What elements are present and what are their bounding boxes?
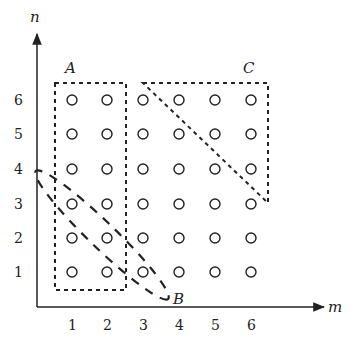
region-b-label: B [172, 290, 184, 308]
x-tick-labels: 1 2 3 4 5 6 [68, 317, 256, 333]
point-circle [102, 95, 112, 105]
y-tick: 2 [14, 230, 23, 246]
y-tick: 5 [14, 126, 23, 142]
x-tick: 2 [103, 317, 112, 333]
y-axis-label: n [30, 8, 40, 26]
point-circle [174, 267, 184, 277]
point-circle [210, 164, 220, 174]
point-circle [102, 164, 112, 174]
point-circle [138, 199, 148, 209]
point-circle [174, 199, 184, 209]
point-circle [246, 233, 256, 243]
point-circle [246, 129, 256, 139]
x-tick: 4 [175, 317, 184, 333]
region-b-outline [27, 162, 177, 309]
point-circle [246, 95, 256, 105]
lattice-diagram: n m 1 2 3 4 5 6 1 2 3 4 5 6 [0, 0, 354, 340]
y-tick: 6 [14, 92, 23, 108]
region-a-label: A [63, 59, 76, 77]
point-circle [210, 129, 220, 139]
y-tick: 1 [14, 264, 23, 280]
diagram-svg: n m 1 2 3 4 5 6 1 2 3 4 5 6 [0, 0, 354, 340]
grid-points [67, 95, 256, 277]
point-circle [210, 267, 220, 277]
x-axis-label: m [328, 298, 342, 316]
point-circle [246, 199, 256, 209]
region-c-label: C [243, 59, 255, 77]
point-circle [67, 199, 77, 209]
point-circle [210, 199, 220, 209]
point-circle [210, 233, 220, 243]
x-tick: 5 [211, 317, 220, 333]
point-circle [246, 164, 256, 174]
point-circle [210, 95, 220, 105]
x-tick: 6 [247, 317, 256, 333]
point-circle [102, 233, 112, 243]
point-circle [174, 233, 184, 243]
point-circle [67, 164, 77, 174]
point-circle [102, 129, 112, 139]
region-c-outline [143, 83, 268, 203]
point-circle [174, 95, 184, 105]
point-circle [67, 129, 77, 139]
y-tick: 3 [14, 196, 23, 212]
x-tick: 1 [68, 317, 77, 333]
point-circle [138, 95, 148, 105]
y-tick: 4 [14, 161, 23, 177]
point-circle [138, 233, 148, 243]
y-tick-labels: 1 2 3 4 5 6 [14, 92, 23, 280]
point-circle [67, 95, 77, 105]
point-circle [174, 164, 184, 174]
point-circle [138, 164, 148, 174]
point-circle [102, 267, 112, 277]
point-circle [138, 129, 148, 139]
point-circle [174, 129, 184, 139]
point-circle [138, 267, 148, 277]
point-circle [67, 233, 77, 243]
point-circle [67, 267, 77, 277]
point-circle [246, 267, 256, 277]
x-tick: 3 [139, 317, 148, 333]
point-circle [102, 199, 112, 209]
